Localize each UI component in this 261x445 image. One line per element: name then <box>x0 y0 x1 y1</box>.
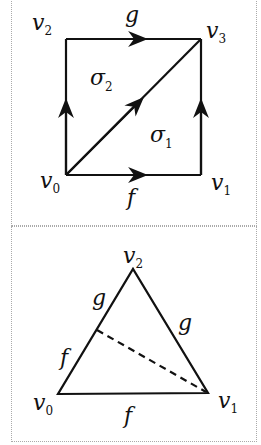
diagram-canvas: v2 g v3 σ2 σ1 v0 f v1 v2 g g f v0 f v1 <box>0 0 261 445</box>
edge-f-label: f <box>125 185 139 210</box>
vertex-v0-label: v0 <box>40 168 60 196</box>
edge-g-label: g <box>125 2 139 27</box>
vertex-v2-label: v2 <box>32 10 52 38</box>
simplex-sigma1-label: σ1 <box>150 122 173 151</box>
tri-vertex-v2-label: v2 <box>123 243 143 271</box>
vertex-v1-label: v1 <box>211 170 231 198</box>
simplex-sigma2-label: σ2 <box>90 65 113 94</box>
vertex-v3-label: v3 <box>206 18 226 46</box>
tri-edge-g-right-label: g <box>178 310 192 335</box>
tri-edge-f-bottom-label: f <box>122 403 136 428</box>
tri-edge-g-left-label: g <box>92 285 106 310</box>
square-diagram <box>66 39 201 175</box>
tri-edge-f-left-label: f <box>58 345 72 370</box>
tri-vertex-v1-label: v1 <box>218 388 238 416</box>
tri-vertex-v0-label: v0 <box>33 390 53 418</box>
